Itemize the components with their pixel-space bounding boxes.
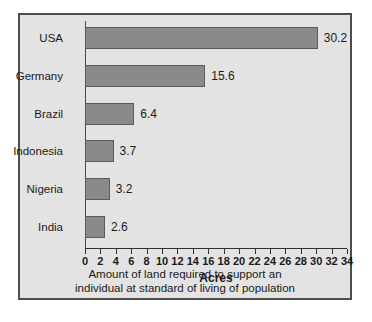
bar xyxy=(85,27,318,49)
x-tick-label: 10 xyxy=(156,255,168,267)
x-tick-label: 18 xyxy=(218,255,230,267)
category-label: Germany xyxy=(16,70,63,82)
x-tick-mark xyxy=(301,249,302,254)
x-tick-mark xyxy=(316,249,317,254)
plot-area: USA30.2Germany15.6Brazil6.4Indonesia3.7N… xyxy=(85,21,347,248)
x-tick-mark xyxy=(239,249,240,254)
x-tick-mark xyxy=(347,249,348,254)
bar-value-label: 30.2 xyxy=(324,31,347,45)
bar-row: USA30.2 xyxy=(85,27,347,49)
x-tick-label: 32 xyxy=(325,255,337,267)
x-tick-label: 34 xyxy=(341,255,353,267)
x-axis-line xyxy=(85,248,347,249)
category-label: Nigeria xyxy=(27,183,63,195)
chart-figure: USA30.2Germany15.6Brazil6.4Indonesia3.7N… xyxy=(18,13,352,300)
x-tick-label: 16 xyxy=(202,255,214,267)
x-tick-mark xyxy=(270,249,271,254)
caption-line-2: individual at standard of living of popu… xyxy=(28,281,342,295)
x-tick-label: 24 xyxy=(264,255,276,267)
category-label: Indonesia xyxy=(13,145,63,157)
x-tick-mark xyxy=(255,249,256,254)
x-tick-mark xyxy=(208,249,209,254)
x-tick-label: 20 xyxy=(233,255,245,267)
bar-value-label: 6.4 xyxy=(140,107,157,121)
bar-value-label: 2.6 xyxy=(111,220,128,234)
x-tick-mark xyxy=(100,249,101,254)
x-tick-label: 30 xyxy=(310,255,322,267)
bar xyxy=(85,103,134,125)
x-tick-mark xyxy=(224,249,225,254)
bar-row: Nigeria3.2 xyxy=(85,178,347,200)
x-tick-label: 0 xyxy=(82,255,88,267)
x-tick-mark xyxy=(285,249,286,254)
x-tick-mark xyxy=(116,249,117,254)
bar xyxy=(85,178,110,200)
x-tick-mark xyxy=(147,249,148,254)
y-axis-line xyxy=(85,21,86,248)
bar-value-label: 3.2 xyxy=(116,182,133,196)
bar-row: Brazil6.4 xyxy=(85,103,347,125)
category-label: Brazil xyxy=(34,108,63,120)
x-tick-label: 14 xyxy=(187,255,199,267)
x-tick-label: 12 xyxy=(171,255,183,267)
x-tick-mark xyxy=(131,249,132,254)
bar xyxy=(85,216,105,238)
x-tick-label: 26 xyxy=(279,255,291,267)
x-tick-label: 4 xyxy=(113,255,119,267)
bar xyxy=(85,65,205,87)
bar-row: Indonesia3.7 xyxy=(85,140,347,162)
x-tick-label: 28 xyxy=(295,255,307,267)
x-tick-mark xyxy=(162,249,163,254)
x-tick-mark xyxy=(177,249,178,254)
caption-line-1: Amount of land required to support an xyxy=(28,267,342,281)
chart-caption: Amount of land required to support an in… xyxy=(28,267,342,295)
x-tick-mark xyxy=(85,249,86,254)
x-tick-label: 6 xyxy=(128,255,134,267)
bar xyxy=(85,140,114,162)
bar-value-label: 3.7 xyxy=(120,144,137,158)
category-label: USA xyxy=(39,32,63,44)
bar-row: Germany15.6 xyxy=(85,65,347,87)
x-tick-mark xyxy=(193,249,194,254)
x-tick-mark xyxy=(332,249,333,254)
x-tick-label: 22 xyxy=(248,255,260,267)
bar-value-label: 15.6 xyxy=(211,69,234,83)
x-tick-label: 8 xyxy=(144,255,150,267)
x-tick-label: 2 xyxy=(97,255,103,267)
category-label: India xyxy=(38,221,63,233)
bar-row: India2.6 xyxy=(85,216,347,238)
